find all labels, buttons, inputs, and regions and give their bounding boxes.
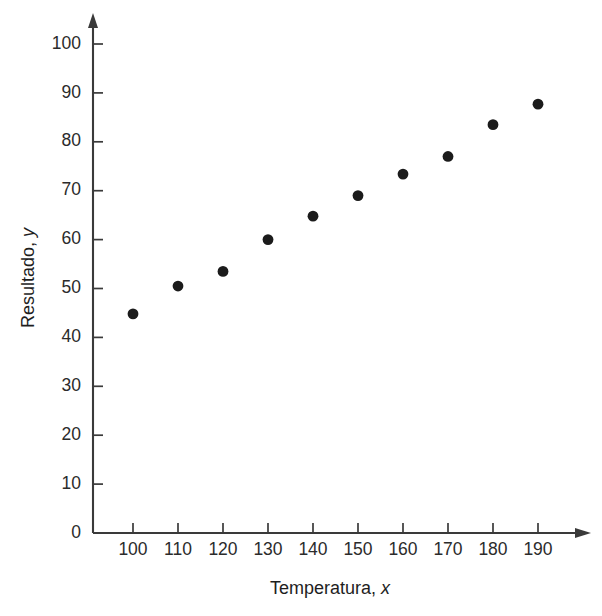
- data-point-marker: [218, 266, 229, 277]
- x-tick-label: 140: [298, 539, 327, 559]
- plot-background: [0, 0, 602, 616]
- x-tick-label: 150: [343, 539, 372, 559]
- figure-caption: [0, 598, 602, 616]
- y-tick-label: 10: [62, 473, 82, 493]
- data-point-marker: [128, 309, 139, 320]
- y-axis-title: Resultado, y: [18, 227, 38, 328]
- data-point-marker: [263, 234, 274, 245]
- y-tick-label: 100: [52, 33, 81, 53]
- scatter-plot-figure: 0102030405060708090100 10011012013014015…: [0, 0, 602, 616]
- data-point-marker: [173, 281, 184, 292]
- plot-canvas: 0102030405060708090100 10011012013014015…: [0, 0, 602, 616]
- y-tick-label: 70: [62, 179, 82, 199]
- x-tick-label: 110: [164, 539, 192, 559]
- y-tick-label: 0: [71, 522, 81, 542]
- y-tick-label: 40: [62, 326, 82, 346]
- y-tick-label: 50: [62, 277, 82, 297]
- data-point-marker: [533, 99, 544, 110]
- y-tick-label: 60: [62, 228, 82, 248]
- x-tick-label: 170: [433, 539, 462, 559]
- x-tick-label: 180: [478, 539, 507, 559]
- data-point-marker: [353, 190, 364, 201]
- data-point-marker: [443, 151, 454, 162]
- y-tick-label: 80: [62, 130, 82, 150]
- x-axis-title: Temperatura, x: [270, 578, 391, 598]
- x-tick-label: 160: [388, 539, 417, 559]
- x-tick-label: 100: [118, 539, 147, 559]
- data-point-marker: [398, 169, 409, 180]
- x-tick-label: 130: [253, 539, 282, 559]
- x-tick-label: 190: [523, 539, 552, 559]
- y-tick-label: 90: [62, 82, 82, 102]
- data-point-marker: [308, 211, 319, 222]
- x-tick-label: 120: [208, 539, 237, 559]
- y-tick-label: 20: [62, 424, 82, 444]
- y-tick-label: 30: [62, 375, 82, 395]
- data-point-marker: [488, 119, 499, 130]
